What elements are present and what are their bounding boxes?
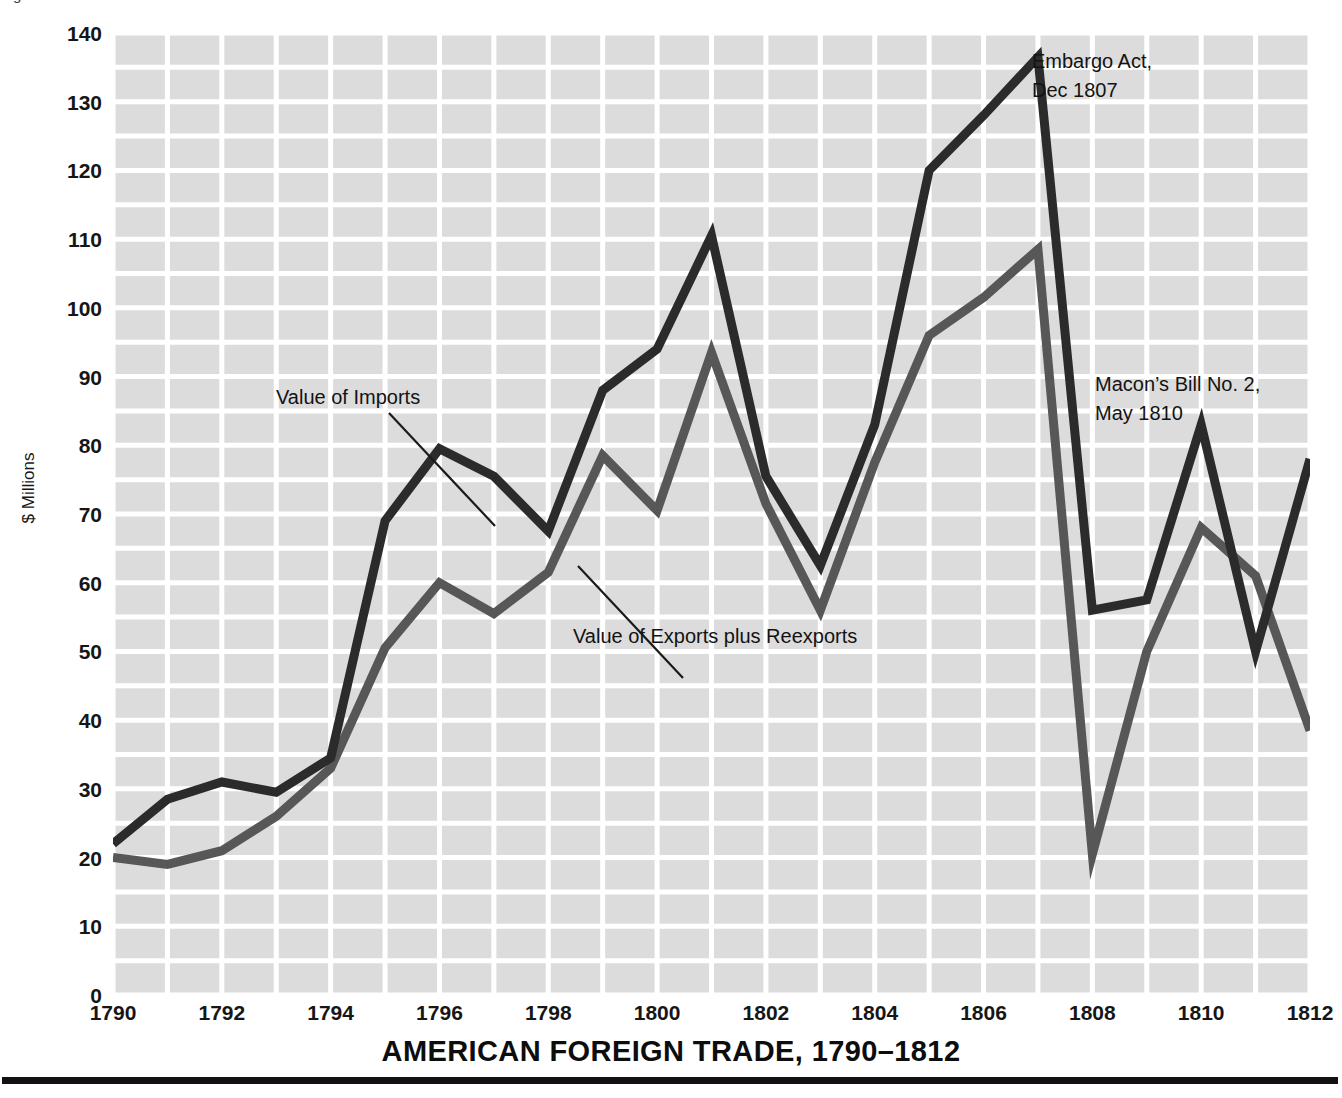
x-axis-tick-1804: 1804: [815, 1002, 935, 1023]
annotation-macons-bill: Macon’s Bill No. 2, May 1810: [1095, 370, 1260, 428]
chart-title: AMERICAN FOREIGN TRADE, 1790–1812: [0, 1035, 1342, 1068]
annotation-embargo-line1: Embargo Act,: [1032, 47, 1152, 76]
y-axis-tick-60: 60: [22, 572, 102, 593]
chart-figure: 0102030405060708090100110120130140 $ Mil…: [0, 0, 1342, 1098]
bottom-rule: [2, 1077, 1338, 1084]
y-axis-tick-90: 90: [22, 366, 102, 387]
x-axis-tick-1806: 1806: [924, 1002, 1044, 1023]
x-axis-tick-1792: 1792: [162, 1002, 282, 1023]
y-axis-tick-30: 30: [22, 778, 102, 799]
y-axis-label: $ Millions: [19, 418, 39, 558]
x-axis-tick-1810: 1810: [1141, 1002, 1261, 1023]
series-label-exports: Value of Exports plus Reexports: [573, 622, 857, 651]
y-axis-tick-50: 50: [22, 641, 102, 662]
y-axis-tick-20: 20: [22, 847, 102, 868]
annotation-macon-line2: May 1810: [1095, 399, 1260, 428]
x-axis-tick-1812: 1812: [1250, 1002, 1342, 1023]
data-layer: [113, 33, 1310, 995]
y-axis-tick-100: 100: [22, 297, 102, 318]
x-axis-tick-1800: 1800: [597, 1002, 717, 1023]
y-axis-tick-140: 140: [22, 23, 102, 44]
y-axis-tick-120: 120: [22, 160, 102, 181]
y-axis-tick-40: 40: [22, 710, 102, 731]
x-axis-tick-1790: 1790: [53, 1002, 173, 1023]
annotation-macon-line1: Macon’s Bill No. 2,: [1095, 370, 1260, 399]
x-axis-tick-1802: 1802: [706, 1002, 826, 1023]
annotation-embargo-line2: Dec 1807: [1032, 76, 1152, 105]
series-label-imports: Value of Imports: [276, 383, 420, 412]
y-axis-tick-10: 10: [22, 916, 102, 937]
x-axis-tick-1808: 1808: [1032, 1002, 1152, 1023]
y-axis-tick-110: 110: [22, 229, 102, 250]
plot-area: [113, 33, 1310, 995]
x-axis-tick-1798: 1798: [488, 1002, 608, 1023]
x-axis-tick-1796: 1796: [379, 1002, 499, 1023]
annotation-embargo-act: Embargo Act, Dec 1807: [1032, 47, 1152, 105]
y-axis-tick-130: 130: [22, 91, 102, 112]
x-axis-tick-1794: 1794: [271, 1002, 391, 1023]
